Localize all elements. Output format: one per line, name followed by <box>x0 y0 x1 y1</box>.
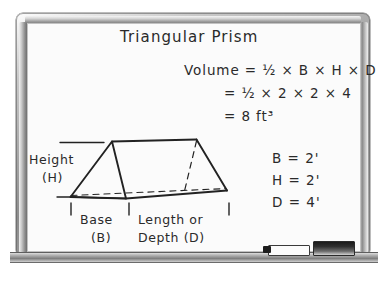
volume-formula-line-3: = 8 ft³ <box>224 108 274 124</box>
board-title: Triangular Prism <box>120 28 258 46</box>
variable-value-d: D = 4' <box>272 194 321 210</box>
label-height-line-2: (H) <box>42 170 63 185</box>
whiteboard-marker-cap-icon <box>263 246 271 253</box>
volume-formula-line-1: Volume = ½ × B × H × D <box>184 62 376 78</box>
volume-formula-line-2: = ½ × 2 × 2 × 4 <box>224 85 352 101</box>
whiteboard-scene: Triangular Prism Volume = ½ × B × H × D … <box>0 0 386 283</box>
label-base-line-2: (B) <box>91 230 111 245</box>
label-height-line-1: Height <box>29 152 74 167</box>
label-base-line-1: Base <box>80 212 113 227</box>
label-length-line-1: Length or <box>138 212 203 227</box>
whiteboard-eraser[interactable] <box>313 241 355 256</box>
marker-tray-lip <box>10 259 378 262</box>
label-length-line-2: Depth (D) <box>138 230 205 245</box>
whiteboard-marker[interactable] <box>268 245 310 256</box>
variable-value-b: B = 2' <box>272 150 319 166</box>
variable-value-h: H = 2' <box>272 172 320 188</box>
frame-rail-left <box>19 22 27 253</box>
